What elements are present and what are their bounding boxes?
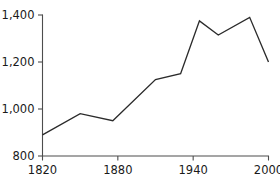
chart-canvas: 8001,0001,2001,400 1820188019402000: [0, 0, 280, 186]
y-tick-label: 1,400: [2, 8, 35, 22]
x-tick-label: 1940: [179, 163, 208, 177]
y-tick-label: 1,200: [2, 55, 35, 69]
line-chart: 8001,0001,2001,400 1820188019402000: [0, 0, 280, 186]
x-tick-label: 1820: [28, 163, 57, 177]
x-tick-label: 1880: [103, 163, 132, 177]
y-tick-label: 1,000: [2, 102, 35, 116]
x-tick-label: 2000: [254, 163, 280, 177]
y-tick-label: 800: [13, 149, 35, 163]
